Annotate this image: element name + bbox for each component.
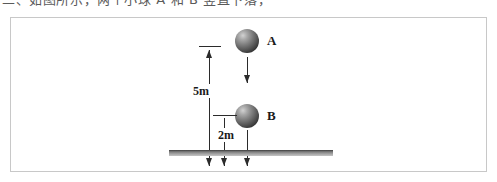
ball-a-label: A: [267, 34, 276, 47]
physics-diagram: 5m A B 2m: [11, 18, 488, 173]
dimension-5m-label: 5m: [191, 84, 211, 98]
dimension-5m-up-arrowhead: [206, 50, 212, 58]
caption-text: 二、如图所示，两个小球 A 和 B 竖直下落，: [2, 0, 271, 8]
ball-b-label: B: [267, 109, 276, 122]
dimension-2m-down-arrowhead: [221, 158, 227, 166]
caption-strip: 二、如图所示，两个小球 A 和 B 竖直下落，: [0, 0, 497, 13]
dimension-2m-top-tick: [213, 115, 237, 116]
dimension-5m-top-tick: [199, 46, 221, 47]
ground-line: [169, 150, 333, 156]
ball-b: [235, 104, 259, 128]
dimension-2m-label: 2m: [216, 128, 236, 142]
ball-a: [235, 29, 259, 53]
figure-frame: 5m A B 2m: [10, 17, 487, 172]
dimension-5m-line: [209, 50, 210, 166]
dimension-5m-down-arrowhead: [206, 158, 212, 166]
ball-a-velocity-arrowhead: [244, 75, 250, 83]
ball-b-velocity-arrowhead: [244, 158, 250, 166]
